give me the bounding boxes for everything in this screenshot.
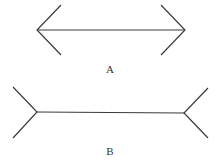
figure-a	[37, 5, 185, 55]
figure-b	[13, 87, 208, 138]
figure-b-shaft	[37, 112, 184, 113]
figure-b-left-fins	[13, 87, 37, 138]
muller-lyer-diagram	[0, 0, 221, 164]
figure-b-label: B	[106, 145, 113, 157]
figure-a-label: A	[106, 63, 114, 75]
figure-b-right-fins	[184, 88, 208, 138]
